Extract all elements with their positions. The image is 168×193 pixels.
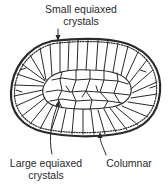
- chill-zone-small-equiaxed: [14, 42, 156, 133]
- label-line-1: Small equiaxed: [26, 3, 136, 15]
- label-line-2: crystals: [26, 15, 136, 27]
- large-equiaxed-leader: [50, 104, 58, 154]
- label-line-2: crystals: [4, 169, 88, 181]
- label-columnar: Columnar: [98, 157, 160, 169]
- columnar-grains: [14, 40, 157, 134]
- label-small-equiaxed-crystals: Small equiaxed crystals: [26, 3, 136, 27]
- label-line-1: Large equiaxed: [4, 157, 88, 169]
- columnar-leader: [100, 136, 106, 155]
- arrowheads: [55, 35, 103, 138]
- label-large-equiaxed-crystals: Large equiaxed crystals: [4, 157, 88, 181]
